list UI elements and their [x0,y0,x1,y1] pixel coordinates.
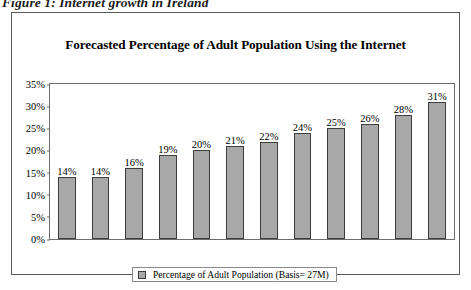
bar-value-label: 22% [259,131,278,142]
bar-value-label: 21% [226,135,245,146]
y-axis-tick-label: 0% [31,234,50,245]
bar: 26% [361,124,379,239]
bar: 28% [395,115,413,239]
y-axis-tick-label: 10% [26,189,50,200]
chart-legend: Percentage of Adult Population (Basis= 2… [132,267,337,282]
bar-value-label: 20% [192,139,211,150]
figure-caption: Figure 1: Internet growth in Ireland [2,0,209,11]
bar-value-label: 24% [293,122,312,133]
bar: 22% [260,142,278,239]
y-axis-tick-label: 35% [26,79,50,90]
plot-area: 0%5%10%15%20%25%30%35% 14%14%16%19%20%21… [49,83,455,240]
bar-value-label: 26% [360,113,379,124]
bar: 24% [294,133,312,239]
bar: 19% [159,155,177,239]
bar: 14% [58,177,76,239]
bar: 14% [92,177,110,239]
bar-value-label: 25% [327,117,346,128]
bar-value-label: 14% [57,166,76,177]
y-axis-tick-label: 15% [26,167,50,178]
bar-value-label: 16% [125,157,144,168]
chart-frame: Forecasted Percentage of Adult Populatio… [11,12,460,275]
bar: 21% [226,146,244,239]
legend-swatch-icon [138,271,146,279]
bar-value-label: 31% [428,91,447,102]
bar: 31% [428,102,446,239]
bar: 16% [125,168,143,239]
y-axis-tick-label: 25% [26,123,50,134]
bar-value-label: 14% [91,166,110,177]
bar-value-label: 28% [394,104,413,115]
bar: 20% [193,150,211,239]
chart-title: Forecasted Percentage of Adult Populatio… [12,37,459,53]
y-axis-tick-label: 20% [26,145,50,156]
bar-series: 14%14%16%19%20%21%22%24%25%26%28%31% [50,84,454,239]
y-axis-tick-label: 30% [26,101,50,112]
y-axis-tick-label: 5% [31,211,50,222]
bar-value-label: 19% [158,144,177,155]
bar: 25% [327,128,345,239]
legend-label: Percentage of Adult Population (Basis= 2… [153,269,329,280]
